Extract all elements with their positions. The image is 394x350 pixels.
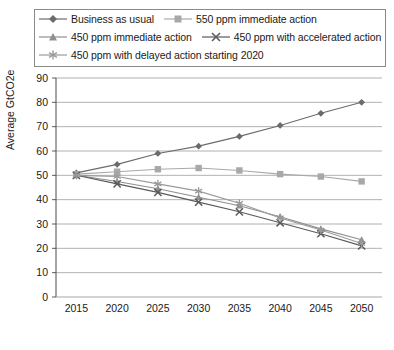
- x-tick-label: 2030: [187, 302, 211, 314]
- x-tick-label: 2020: [105, 302, 129, 314]
- line-chart: 0102030405060708090201520202025203020352…: [0, 0, 394, 350]
- data-point-square: [277, 171, 283, 177]
- y-tick-label: 90: [36, 72, 48, 84]
- y-tick-label: 10: [36, 266, 48, 278]
- y-tick-label: 70: [36, 120, 48, 132]
- y-tick-label: 30: [36, 218, 48, 230]
- y-tick-label: 60: [36, 145, 48, 157]
- x-tick-label: 2045: [309, 302, 333, 314]
- x-tick-label: 2025: [146, 302, 170, 314]
- x-tick-label: 2040: [268, 302, 292, 314]
- data-point-square: [236, 167, 242, 173]
- x-tick-label: 2035: [228, 302, 252, 314]
- series-business-as-usual: [73, 99, 365, 176]
- y-tick-label: 20: [36, 242, 48, 254]
- data-point-diamond: [317, 110, 324, 117]
- data-point-square: [195, 165, 201, 171]
- data-point-diamond: [358, 99, 365, 106]
- series-450-ppm-with-accelerated-action: [73, 172, 365, 250]
- data-point-square: [155, 166, 161, 172]
- x-tick-label: 2050: [350, 302, 374, 314]
- data-point-square: [318, 173, 324, 179]
- data-point-diamond: [236, 133, 243, 140]
- y-tick-label: 80: [36, 96, 48, 108]
- data-point-square: [358, 178, 364, 184]
- data-point-diamond: [277, 122, 284, 129]
- y-tick-label: 50: [36, 169, 48, 181]
- x-tick-label: 2015: [65, 302, 89, 314]
- data-point-diamond: [114, 161, 121, 168]
- data-point-diamond: [195, 143, 202, 150]
- data-point-x: [236, 208, 243, 215]
- y-tick-label: 40: [36, 193, 48, 205]
- y-tick-label: 0: [42, 291, 48, 303]
